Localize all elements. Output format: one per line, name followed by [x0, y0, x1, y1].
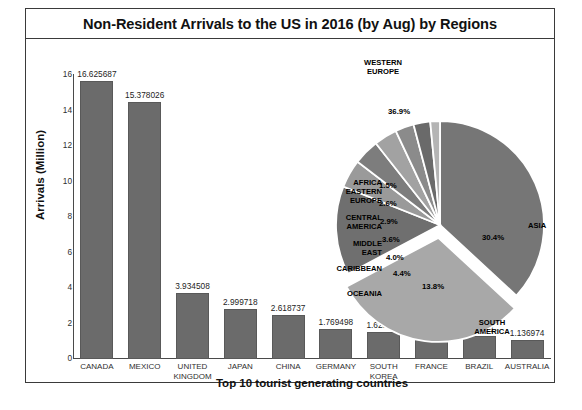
page-title: Non-Resident Arrivals to the US in 2016 …	[83, 16, 497, 32]
pie-label-oceania: OCEANIA	[312, 290, 382, 299]
bar-item[interactable]: 2.618737CHINA	[272, 75, 305, 359]
pie-value-asia: 30.4%	[482, 233, 504, 242]
y-axis-tick: 6	[42, 247, 72, 257]
pie-label-africa: AFRICA	[322, 179, 382, 188]
x-axis-title: Top 10 tourist generating countries	[73, 377, 551, 389]
y-axis-ticks: 1614121086420	[36, 39, 72, 382]
y-axis-tick: 4	[42, 282, 72, 292]
pie-label-caribbean: CARIBBEAN	[296, 265, 382, 274]
pie-value-eastern-europe: 2.6%	[379, 199, 397, 208]
bar-value-label: 2.999718	[223, 297, 258, 307]
plot-area: Arrivals (Million) 1614121086420 16.6256…	[26, 39, 554, 382]
pie-label-middle-east: MIDDLE EAST	[316, 240, 382, 257]
pie-value-central-america: 2.9%	[380, 217, 398, 226]
bar-category-label: AUSTRALIA	[497, 362, 557, 372]
bar-value-label: 15.378026	[125, 90, 164, 100]
bar-rect[interactable]	[176, 293, 209, 359]
bar-rect[interactable]	[128, 102, 161, 359]
pie-chart: WESTERN EUROPE ASIA SOUTH AMERICA OCEANI…	[322, 47, 556, 347]
pie-label-western-europe: WESTERN EUROPE	[346, 59, 420, 76]
bar-value-label: 3.934508	[175, 281, 210, 291]
y-axis-tick: 16	[42, 69, 72, 79]
bar-item[interactable]: 16.625687CANADA	[80, 75, 113, 359]
bar-item[interactable]: 15.378026MEXICO	[128, 75, 161, 359]
pie-label-south-america: SOUTH AMERICA	[462, 319, 522, 336]
y-axis-tick: 12	[42, 140, 72, 150]
pie-label-asia: ASIA	[528, 222, 546, 231]
bar-value-label: 16.625687	[77, 69, 116, 79]
bar-rect[interactable]	[272, 315, 305, 359]
pie-value-middle-east: 3.6%	[382, 235, 400, 244]
bar-rect[interactable]	[80, 81, 113, 359]
title-bar: Non-Resident Arrivals to the US in 2016 …	[26, 9, 554, 39]
pie-label-central-america: CENTRAL AMERICA	[314, 214, 382, 231]
y-axis-tick: 14	[42, 105, 72, 115]
bar-item[interactable]: 2.999718JAPAN	[224, 75, 257, 359]
y-axis-tick: 10	[42, 176, 72, 186]
y-axis-tick: 8	[42, 211, 72, 221]
bar-item[interactable]: 3.934508UNITEDKINGDOM	[176, 75, 209, 359]
bar-rect[interactable]	[224, 309, 257, 359]
pie-label-eastern-europe: EASTERN EUROPE	[314, 188, 382, 205]
pie-value-south-america: 13.8%	[422, 282, 444, 291]
pie-value-oceania: 4.4%	[393, 269, 411, 278]
pie-value-western-europe: 36.9%	[388, 107, 410, 116]
y-axis-tick: 2	[42, 318, 72, 328]
chart-frame: Non-Resident Arrivals to the US in 2016 …	[25, 8, 555, 383]
pie-value-caribbean: 4.0%	[386, 253, 404, 262]
pie-value-africa: 1.5%	[379, 181, 397, 190]
bar-value-label: 2.618737	[271, 303, 306, 313]
